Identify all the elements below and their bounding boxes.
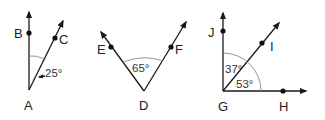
point-f (168, 44, 173, 49)
label-j: J (208, 25, 215, 40)
label-i: I (270, 39, 274, 54)
label-g: G (218, 99, 228, 114)
point-b (26, 30, 31, 35)
point-h (280, 88, 285, 93)
angle-label-igh: 53° (236, 78, 253, 90)
label-h: H (279, 99, 288, 114)
label-a: A (24, 98, 33, 113)
label-f: F (175, 42, 183, 57)
point-i (259, 40, 264, 45)
angle-label-bac: 25° (45, 67, 62, 79)
figure-angle-edf: E F D 65° (97, 22, 186, 113)
angle-arc-bac (29, 56, 44, 59)
angle-label-jgi: 37° (225, 63, 242, 75)
label-b: B (14, 26, 23, 41)
figure-angle-bac: B C A 25° (14, 12, 68, 113)
point-c (52, 35, 57, 40)
label-e: E (97, 42, 106, 57)
point-j (220, 28, 225, 33)
label-c: C (59, 32, 68, 47)
angles-diagram: B C A 25° E F D 65° J I H G 37° 53° (0, 0, 325, 120)
figure-angles-jgi-igh: J I H G 37° 53° (208, 13, 306, 114)
point-e (108, 44, 113, 49)
angle-label-edf: 65° (132, 62, 149, 74)
label-d: D (139, 98, 148, 113)
